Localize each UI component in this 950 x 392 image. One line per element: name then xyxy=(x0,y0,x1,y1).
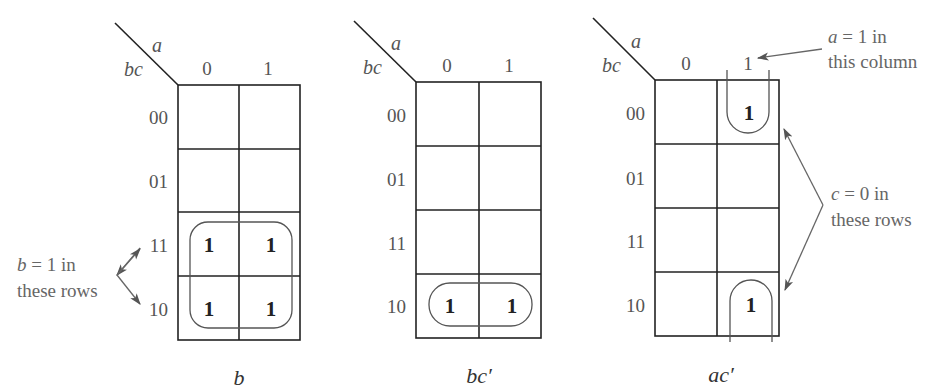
arrow-up xyxy=(117,249,140,275)
annotation-b-rows: b = 1 in these rows xyxy=(17,248,140,304)
arrow-down xyxy=(117,275,140,304)
map-caption: bc′ xyxy=(466,363,493,388)
row-variable-label: bc xyxy=(124,58,143,80)
col-variable-label: a xyxy=(631,30,641,52)
annotation-line1: b = 1 in xyxy=(17,254,76,275)
row-header-00: 00 xyxy=(387,105,406,126)
kmap-ac-prime: a bc 0 1 00 01 11 10 1 1 ac′ a = 1 in th… xyxy=(593,18,918,387)
annotation-text: = 1 in xyxy=(838,26,888,47)
cell-10-0: 1 xyxy=(204,297,215,321)
row-header-11: 11 xyxy=(150,235,168,256)
arrow-to-column-1 xyxy=(758,49,822,58)
col-header-0: 0 xyxy=(202,58,212,79)
arrow-to-row-10 xyxy=(785,205,823,290)
annotation-var: a xyxy=(828,26,838,47)
col-header-1: 1 xyxy=(743,53,753,74)
row-header-00: 00 xyxy=(149,107,168,128)
annotation-text: = 1 in xyxy=(27,254,77,275)
annotation-a-column: a = 1 in this column xyxy=(758,26,918,72)
kmap-bc-prime: a bc 0 1 00 01 11 10 1 1 bc′ xyxy=(354,21,541,388)
row-header-11: 11 xyxy=(627,231,645,252)
col-header-1: 1 xyxy=(504,55,514,76)
cell-11-0: 1 xyxy=(204,233,215,257)
cell-10-1: 1 xyxy=(266,297,277,321)
cell-11-1: 1 xyxy=(266,233,277,257)
row-header-10: 10 xyxy=(626,295,645,316)
annotation-line1: c = 0 in xyxy=(831,183,889,204)
row-header-01: 01 xyxy=(149,171,168,192)
row-header-00: 00 xyxy=(626,103,645,124)
col-header-0: 0 xyxy=(681,53,691,74)
row-variable-label: bc xyxy=(363,56,382,78)
annotation-var: b xyxy=(17,254,27,275)
row-header-01: 01 xyxy=(626,168,645,189)
row-header-11: 11 xyxy=(388,233,406,254)
kmap-b: a bc 0 1 00 01 11 10 1 1 1 1 b b = 1 in … xyxy=(17,23,300,390)
cell-10-1: 1 xyxy=(507,294,518,318)
row-header-10: 10 xyxy=(387,296,406,317)
annotation-line2: this column xyxy=(828,51,918,72)
col-variable-label: a xyxy=(391,32,401,54)
annotation-line2: these rows xyxy=(831,209,912,230)
annotation-line1: a = 1 in xyxy=(828,26,887,47)
annotation-c-rows: c = 0 in these rows xyxy=(784,129,912,290)
karnaugh-maps-figure: a bc 0 1 00 01 11 10 1 1 1 1 b b = 1 in … xyxy=(0,0,950,392)
row-header-10: 10 xyxy=(149,299,168,320)
row-variable-label: bc xyxy=(602,54,621,76)
annotation-line2: these rows xyxy=(17,280,98,301)
cell-10-0: 1 xyxy=(445,294,456,318)
cell-00-1: 1 xyxy=(744,101,755,125)
col-header-1: 1 xyxy=(263,58,273,79)
col-variable-label: a xyxy=(152,34,162,56)
map-caption: b xyxy=(234,365,245,390)
col-header-0: 0 xyxy=(442,55,452,76)
map-caption: ac′ xyxy=(708,362,735,387)
row-header-01: 01 xyxy=(387,169,406,190)
arrow-to-row-00 xyxy=(784,129,823,205)
cell-10-1: 1 xyxy=(746,293,757,317)
annotation-text: = 0 in xyxy=(839,183,889,204)
